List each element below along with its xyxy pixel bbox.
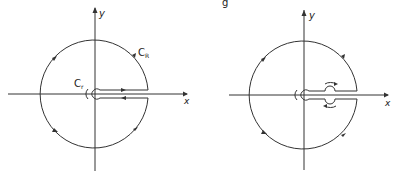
left-upper-edge-arrow-icon: [121, 88, 126, 92]
left-y-axis-arrowhead-icon: [93, 7, 98, 13]
left-cr-inner-label: Cr: [74, 78, 84, 90]
left-lower-edge-arrow-icon: [121, 96, 126, 100]
right-x-label: x: [384, 98, 391, 108]
caption-fragment: g: [222, 0, 228, 8]
right-x-axis-arrowhead-icon: [384, 93, 389, 98]
right-y-label: y: [308, 10, 316, 21]
left-y-label: y: [98, 8, 106, 19]
contour-diagram-figure: g y x CR Cr: [0, 0, 394, 181]
right-y-axis-arrowhead-icon: [302, 10, 307, 16]
left-panel: [8, 7, 188, 171]
right-keyhole-lower-edge: [309, 99, 357, 104]
right-keyhole-upper-edge: [309, 86, 357, 91]
right-panel: [229, 10, 389, 170]
right-pole-lower-arrow-icon: [323, 104, 327, 108]
right-pole-upper-arrow-icon: [334, 82, 338, 86]
left-x-label: x: [183, 96, 190, 106]
left-cr-outer-label: CR: [138, 47, 149, 59]
right-outer-arrow-se-icon: [341, 133, 346, 137]
